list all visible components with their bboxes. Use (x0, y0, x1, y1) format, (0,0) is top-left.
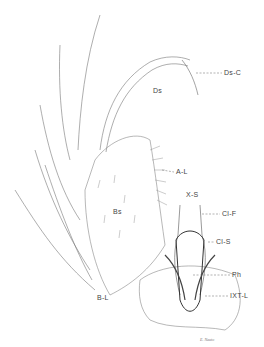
label-a-l: A-L (176, 168, 188, 176)
label-bs: Bs (113, 208, 122, 216)
line-drawing (0, 0, 264, 347)
label-cl-s: Cl-S (216, 238, 231, 246)
label-ds-c: Ds-C (224, 69, 241, 77)
label-b-l: B-L (97, 294, 109, 302)
label-cl-f: Cl-F (222, 210, 236, 218)
label-ph: Ph (232, 271, 241, 279)
label-ixt-l: IXT-L (230, 292, 248, 300)
label-ds: Ds (153, 87, 162, 95)
artist-signature: E. Nauto (200, 337, 214, 342)
label-x-s: X-S (186, 191, 199, 199)
genitalia-illustration: Ds-C Ds A-L Bs X-S Cl-F Cl-S Ph IXT-L B-… (0, 0, 264, 347)
